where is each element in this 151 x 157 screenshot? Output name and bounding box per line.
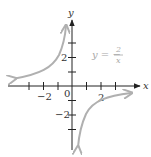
equation-numerator: 2 <box>115 45 121 54</box>
equation-label: y = − 2 x <box>91 45 123 65</box>
y-tick-label-2: 2 <box>61 52 67 63</box>
x-axis: x −2 0 2 <box>8 80 149 103</box>
curve-right-branch <box>78 93 131 147</box>
curve-left-branch <box>15 26 66 79</box>
graph-y-equals-neg2-over-x: x −2 0 2 y 2 −2 y = − 2 x <box>0 0 151 157</box>
x-tick-label-neg2: −2 <box>37 91 52 102</box>
y-axis-label: y <box>67 7 74 18</box>
y-tick-label-neg2: −2 <box>55 109 70 120</box>
equation-denominator: x <box>116 56 121 65</box>
origin-label: 0 <box>64 88 70 99</box>
x-axis-label: x <box>143 80 149 91</box>
